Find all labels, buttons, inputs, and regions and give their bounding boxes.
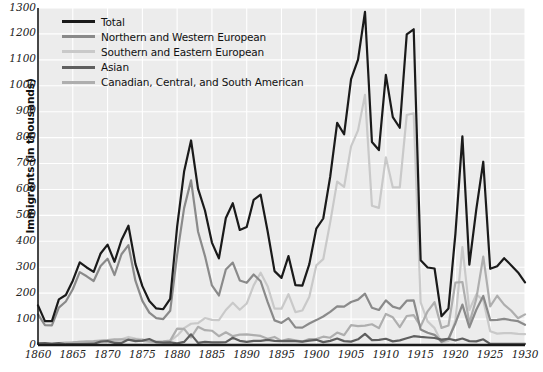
legend-color-swatch [62, 50, 95, 53]
legend-item[interactable]: Asian [62, 60, 303, 75]
legend-color-swatch [62, 81, 95, 84]
legend-item-label: Northern and Western European [101, 31, 266, 43]
legend-color-swatch [62, 20, 95, 23]
legend-item-label: Canadian, Central, and South American [101, 76, 303, 88]
y-tick-label: 200 [2, 286, 36, 298]
legend-color-swatch [62, 35, 95, 38]
legend-item[interactable]: Southern and Eastern European [62, 44, 303, 59]
legend-item-label: Southern and Eastern European [101, 46, 264, 58]
legend-item[interactable]: Canadian, Central, and South American [62, 75, 303, 90]
y-tick-label: 1200 [2, 26, 36, 38]
legend-item-label: Asian [101, 61, 129, 73]
legend: TotalNorthern and Western EuropeanSouthe… [62, 14, 303, 90]
legend-item[interactable]: Northern and Western European [62, 29, 303, 44]
legend-item-label: Total [101, 16, 125, 28]
y-axis-title: Immigrants (in thousands) [24, 56, 36, 256]
y-tick-label: 1300 [2, 1, 36, 13]
legend-item[interactable]: Total [62, 14, 303, 29]
x-axis-ticks: 1860186518701875188018851890189519001905… [0, 348, 531, 368]
legend-color-swatch [62, 66, 95, 69]
y-tick-label: 300 [2, 260, 36, 272]
y-tick-label: 100 [2, 312, 36, 324]
x-tick-label: 1930 [502, 348, 543, 360]
